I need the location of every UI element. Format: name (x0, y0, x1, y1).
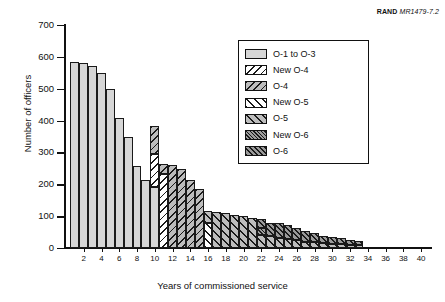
y-tick (57, 57, 66, 58)
bar-segment (257, 235, 266, 248)
bar-column (319, 236, 328, 248)
bar-segment (275, 223, 284, 238)
y-tick (57, 216, 66, 217)
bar-segment (195, 189, 204, 248)
bar-column (301, 231, 310, 248)
bar-column (310, 233, 319, 248)
x-tick (137, 248, 138, 252)
bar-segment (97, 73, 106, 248)
bar-segment (79, 63, 88, 248)
bar-column (212, 212, 221, 248)
x-tick (226, 248, 227, 252)
bar-segment (150, 126, 159, 154)
legend-swatch-icon (245, 130, 267, 140)
bar-column (150, 187, 159, 248)
bar-segment (115, 118, 124, 248)
rand-brand: RAND (377, 8, 398, 15)
bar-column (248, 218, 257, 248)
bar-segment (266, 236, 275, 248)
bar-column (292, 228, 301, 248)
bar-column (88, 66, 97, 248)
bar-column (355, 241, 364, 248)
y-tick-label: 700 (10, 19, 54, 30)
bar-column (168, 165, 177, 248)
y-tick (57, 248, 66, 249)
bar-segment (257, 228, 266, 235)
bar-segment (141, 180, 150, 248)
bar-column (106, 89, 115, 248)
x-tick (279, 248, 280, 252)
y-tick (57, 89, 66, 90)
y-tick-label: 600 (10, 51, 54, 62)
x-tick (244, 248, 245, 252)
x-tick (155, 248, 156, 252)
bar-column (97, 73, 106, 248)
y-tick-label: 300 (10, 146, 54, 157)
bar-segment (186, 180, 195, 248)
bar-segment (319, 236, 328, 243)
legend-swatch-icon (245, 65, 267, 75)
x-tick (119, 248, 120, 252)
bar-segment (328, 244, 337, 248)
legend-label: New O-5 (273, 98, 309, 107)
bar-column (133, 166, 142, 248)
y-tick-label: 200 (10, 178, 54, 189)
bar-column (275, 223, 284, 248)
x-axis-ticks: 246810121416182022242628303234363840 (66, 248, 430, 268)
bar-segment (284, 225, 293, 239)
y-tick (57, 152, 66, 153)
bar-segment (292, 240, 301, 248)
bar-segment (310, 242, 319, 248)
legend-label: O-6 (273, 147, 288, 156)
x-tick (190, 248, 191, 252)
rand-credit: RAND MR1479-7.2 (377, 8, 439, 15)
x-tick (173, 248, 174, 252)
x-tick-label: 40 (411, 254, 431, 263)
bar-segment (159, 174, 168, 248)
bar-segment (337, 238, 346, 244)
bar-column (257, 219, 266, 248)
bar-segment (337, 244, 346, 248)
bar-column (141, 180, 150, 248)
x-tick (350, 248, 351, 252)
x-tick (403, 248, 404, 252)
y-tick-label: 500 (10, 83, 54, 94)
bar-column (195, 189, 204, 248)
legend-item: O-5 (245, 111, 362, 127)
bar-segment (70, 62, 79, 248)
bar-column (186, 180, 195, 248)
legend-swatch-icon (245, 81, 267, 91)
bar-column (177, 169, 186, 248)
bar-column (328, 237, 337, 248)
legend-item: New O-6 (245, 127, 362, 143)
bar-segment (346, 240, 355, 245)
y-tick-label: 400 (10, 115, 54, 126)
legend-swatch-icon (245, 146, 267, 156)
legend-label: O-4 (273, 82, 288, 91)
bar-segment (150, 154, 159, 187)
chart-figure: RAND MR1479-7.2 Number of officers Years… (0, 0, 445, 302)
x-tick (102, 248, 103, 252)
legend-item: O-1 to O-3 (245, 46, 362, 62)
legend-item: New O-4 (245, 62, 362, 78)
bar-segment (266, 223, 275, 236)
x-tick (421, 248, 422, 252)
bar-segment (221, 213, 230, 248)
legend-label: New O-4 (273, 66, 309, 75)
bar-segment (106, 89, 115, 248)
bar-column (124, 137, 133, 248)
x-tick (332, 248, 333, 252)
y-tick (57, 25, 66, 26)
bar-segment (301, 242, 310, 248)
bar-segment (124, 137, 133, 248)
legend-swatch-icon (245, 98, 267, 108)
bar-column (221, 213, 230, 248)
bar-segment (150, 187, 159, 248)
y-tick-label: 100 (10, 210, 54, 221)
bar-column (70, 62, 79, 248)
legend-item: O-4 (245, 78, 362, 94)
x-tick (368, 248, 369, 252)
bar-column (230, 215, 239, 248)
bar-segment (88, 66, 97, 248)
bar-column (79, 63, 88, 248)
